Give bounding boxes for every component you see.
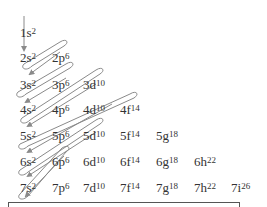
orbital-4p: 4p6 [52, 103, 70, 116]
bottom-rule [8, 202, 240, 203]
orbital-7p: 7p6 [52, 181, 70, 194]
orbital-6g: 6g18 [156, 155, 178, 168]
orbital-5g: 5g18 [156, 129, 178, 142]
orbital-6d: 6d10 [83, 155, 105, 168]
orbital-4d: 4d10 [83, 103, 105, 116]
orbital-5d: 5d10 [83, 129, 105, 142]
orbital-5s: 5s2 [20, 129, 36, 142]
orbital-5p: 5p6 [52, 129, 70, 142]
orbital-5f: 5f14 [120, 129, 140, 142]
orbital-6p: 6p6 [52, 155, 70, 168]
orbital-4s: 4s2 [20, 103, 36, 116]
orbital-2p: 2p6 [52, 51, 70, 64]
orbital-6f: 6f14 [120, 155, 140, 168]
aufbau-diagram: 1s2 2s2 2p6 3s2 3p6 3d10 4s2 4p6 4d10 4f… [0, 0, 267, 207]
orbital-6h: 6h22 [194, 155, 216, 168]
orbital-7f: 7f14 [120, 181, 140, 194]
orbital-7s: 7s2 [20, 181, 36, 194]
orbital-2s: 2s2 [20, 51, 36, 64]
orbital-4f: 4f14 [120, 103, 140, 116]
orbital-3s: 3s2 [20, 78, 36, 91]
orbital-7d: 7d10 [83, 181, 105, 194]
orbital-7i: 7i26 [231, 181, 250, 194]
orbital-7h: 7h22 [194, 181, 216, 194]
orbital-3d: 3d10 [83, 78, 105, 91]
orbital-3p: 3p6 [52, 78, 70, 91]
orbital-1s: 1s2 [20, 26, 36, 39]
orbital-6s: 6s2 [20, 155, 36, 168]
orbital-7g: 7g18 [156, 181, 178, 194]
